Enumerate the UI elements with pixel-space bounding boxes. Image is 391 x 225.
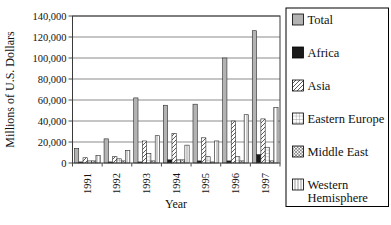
x-tick-labels: 1991199219931994199519961997	[82, 172, 271, 194]
bar-total-1991	[74, 148, 78, 163]
bar-asia-1992	[113, 157, 117, 163]
legend-label: Middle East	[308, 145, 369, 159]
grid-swatch-icon	[293, 113, 304, 124]
x-tick-label: 1991	[82, 173, 93, 194]
legend-label: Eastern Europe	[308, 112, 385, 126]
diagonal-swatch-icon	[293, 80, 304, 91]
crosshatch-swatch-icon	[293, 146, 304, 157]
x-tick-label: 1992	[111, 173, 122, 194]
bar-total-1993	[134, 98, 138, 163]
bar-total-1994	[163, 105, 167, 163]
bar-asia-1997	[261, 119, 265, 163]
bar-eastern-europe-1992	[117, 159, 121, 163]
legend: TotalAfricaAsiaEastern EuropeMiddle East…	[286, 8, 389, 207]
vertical-swatch-icon	[293, 179, 304, 190]
bar-western-hemisphere-1991	[96, 156, 100, 163]
bar-total-1996	[223, 58, 227, 163]
bar-total-1992	[104, 139, 108, 163]
bar-africa-1997	[257, 155, 261, 163]
y-tick-label: 120,000	[32, 32, 66, 43]
x-tick-label: 1996	[230, 173, 241, 194]
bar-chart: 020,00040,00060,00080,000100,000120,0001…	[0, 0, 391, 225]
bar-asia-1996	[231, 121, 235, 163]
x-tick-label: 1994	[171, 172, 182, 194]
bar-total-1997	[252, 31, 256, 163]
bar-western-hemisphere-1996	[244, 115, 248, 163]
bar-eastern-europe-1997	[265, 147, 269, 163]
y-tick-label: 0	[61, 158, 66, 169]
bar-western-hemisphere-1994	[185, 145, 189, 163]
gray-swatch-icon	[293, 14, 304, 25]
y-tick-label: 20,000	[38, 137, 67, 148]
x-tick-label: 1997	[260, 173, 271, 194]
y-tick-label: 140,000	[32, 11, 66, 22]
chart-figure: 020,00040,00060,00080,000100,000120,0001…	[0, 0, 391, 225]
y-tick-label: 80,000	[38, 74, 67, 85]
x-tick-label: 1995	[200, 173, 211, 194]
legend-label: Total	[308, 13, 334, 27]
bar-asia-1995	[202, 138, 206, 163]
legend-label: Africa	[308, 46, 340, 60]
bar-asia-1994	[172, 134, 176, 163]
y-axis-title: Millions of U.S. Dollars	[3, 31, 17, 148]
bar-eastern-europe-1995	[206, 157, 210, 163]
legend-label: Hemisphere	[308, 191, 369, 205]
bar-total-1995	[193, 104, 197, 163]
y-tick-labels: 020,00040,00060,00080,000100,000120,0001…	[32, 11, 66, 169]
legend-label: Western	[308, 178, 349, 192]
x-axis-title: Year	[165, 197, 187, 211]
legend-label: Asia	[308, 79, 331, 93]
bar-western-hemisphere-1997	[274, 107, 278, 163]
bar-western-hemisphere-1992	[126, 150, 130, 163]
y-tick-label: 40,000	[38, 116, 67, 127]
gridlines	[73, 16, 281, 142]
y-tick-label: 60,000	[38, 95, 67, 106]
bar-asia-1993	[142, 141, 146, 163]
bar-western-hemisphere-1995	[214, 141, 218, 163]
bar-western-hemisphere-1993	[155, 136, 159, 163]
bar-asia-1991	[83, 158, 87, 163]
legend-box	[286, 8, 389, 207]
bar-eastern-europe-1996	[236, 157, 240, 163]
bars	[74, 31, 278, 163]
y-tick-label: 100,000	[32, 53, 66, 64]
bar-eastern-europe-1993	[147, 154, 151, 163]
x-tick-label: 1993	[141, 173, 152, 194]
black-swatch-icon	[293, 47, 304, 58]
